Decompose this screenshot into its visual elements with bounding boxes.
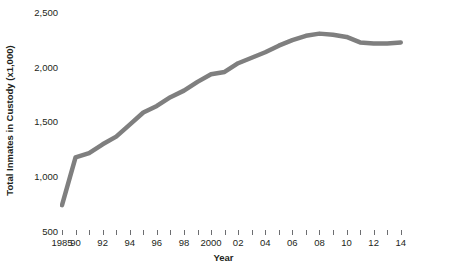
x-tick-mark [143, 230, 144, 235]
x-tick-mark [347, 230, 348, 235]
x-tick-label: 08 [314, 237, 325, 248]
x-axis-tick-labels: 19859092949698200002040608101214 [0, 237, 469, 251]
x-tick-mark [198, 230, 199, 235]
x-tick-mark [89, 230, 90, 235]
data-series-line [62, 34, 401, 206]
x-tick-mark [76, 230, 77, 235]
x-tick-mark [292, 230, 293, 235]
y-tick-label: 2,500 [12, 8, 58, 18]
x-tick-label: 92 [97, 237, 108, 248]
x-tick-mark [265, 230, 266, 235]
x-tick-mark [225, 230, 226, 235]
y-tick-label: 1,500 [12, 117, 58, 127]
x-tick-mark [319, 230, 320, 235]
x-tick-mark [170, 230, 171, 235]
x-tick-mark [252, 230, 253, 235]
x-tick-label: 12 [368, 237, 379, 248]
x-tick-mark [184, 230, 185, 235]
x-tick-label: 06 [287, 237, 298, 248]
y-tick-label: 2,000 [12, 63, 58, 73]
x-tick-mark [130, 230, 131, 235]
x-axis-title: Year [0, 252, 469, 263]
x-tick-mark [333, 230, 334, 235]
x-tick-mark [62, 230, 63, 235]
x-tick-mark [401, 230, 402, 235]
x-tick-mark [374, 230, 375, 235]
x-tick-mark [360, 230, 361, 235]
line-chart: Total Inmates in Custody (x1,000) 5001,0… [0, 0, 469, 273]
x-tick-label: 02 [233, 237, 244, 248]
x-tick-label: 04 [260, 237, 271, 248]
x-tick-mark [238, 230, 239, 235]
x-tick-mark [211, 230, 212, 235]
series-line-svg [60, 0, 465, 236]
x-tick-mark [306, 230, 307, 235]
x-tick-label: 94 [124, 237, 135, 248]
x-tick-mark [116, 230, 117, 235]
x-tick-label: 14 [395, 237, 406, 248]
plot-area [60, 0, 465, 236]
x-tick-label: 10 [341, 237, 352, 248]
x-tick-mark [387, 230, 388, 235]
x-tick-label: 98 [179, 237, 190, 248]
x-axis-title-text: Year [213, 252, 233, 263]
x-tick-label: 2000 [200, 237, 221, 248]
x-tick-label: 96 [152, 237, 163, 248]
x-tick-mark [279, 230, 280, 235]
x-tick-mark [103, 230, 104, 235]
x-tick-mark [157, 230, 158, 235]
y-tick-label: 1,000 [12, 172, 58, 182]
x-tick-label: 90 [70, 237, 81, 248]
